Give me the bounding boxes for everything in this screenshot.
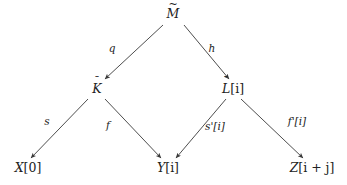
arrow-M-to-L <box>184 25 229 79</box>
tilde-accent-icon: ~ <box>168 0 177 10</box>
edge-label-s: s <box>44 116 49 127</box>
node-Z-i-plus-j: Z[i + j] <box>290 162 335 175</box>
commutative-diagram: ~M ¯K ¯L[i] X[0] Y[i] Z[i + j] q h s f s… <box>0 0 347 185</box>
node-X-suffix: [0] <box>24 160 42 175</box>
bar-accent-icon: ¯ <box>94 75 100 86</box>
node-K-bar: ¯K <box>92 83 101 96</box>
node-L-accented: ¯L <box>222 83 230 96</box>
node-L-bar-i: ¯L[i] <box>222 83 244 96</box>
node-K-accented: ¯K <box>92 83 101 96</box>
arrow-K-to-Y <box>105 99 161 158</box>
edge-label-f-prime-i: f'[i] <box>288 116 306 127</box>
node-M-accented: ~M <box>167 8 180 21</box>
node-X-0: X[0] <box>15 162 42 175</box>
node-Z-base: Z <box>290 160 299 175</box>
node-X-base: X <box>15 160 24 175</box>
edge-label-h: h <box>209 43 216 54</box>
arrow-K-to-X <box>31 99 88 158</box>
node-Y-suffix: [i] <box>165 160 179 175</box>
edge-label-q: q <box>109 43 116 54</box>
node-L-suffix: [i] <box>230 81 244 96</box>
node-M-tilde: ~M <box>167 8 180 21</box>
bar-accent-icon: ¯ <box>223 75 229 86</box>
arrow-L-to-Z <box>241 99 303 158</box>
edge-label-f: f <box>106 120 110 131</box>
node-Z-suffix: [i + j] <box>298 160 334 175</box>
arrow-layer <box>0 0 347 185</box>
edge-label-s-prime-i: s'[i] <box>205 121 225 132</box>
node-Y-i: Y[i] <box>157 162 179 175</box>
